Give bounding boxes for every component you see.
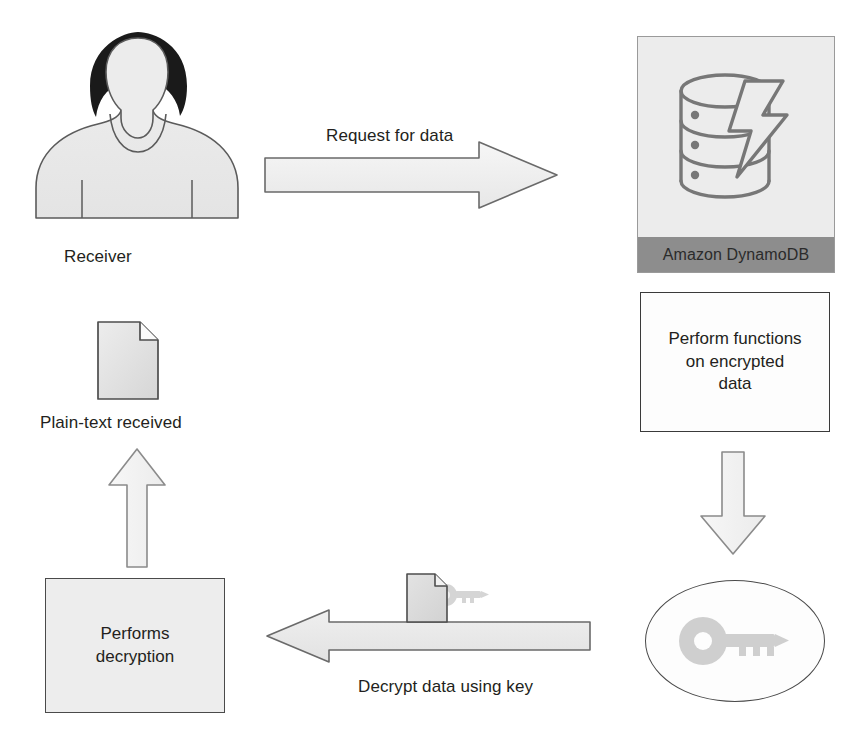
decrypt-data-label: Decrypt data using key — [358, 676, 533, 698]
receiver-label: Receiver — [64, 246, 132, 268]
dynamodb-footer-bar: Amazon DynamoDB — [638, 237, 834, 272]
performs-decryption-box: Performs decryption — [45, 578, 225, 713]
to-key-down-arrow — [697, 450, 769, 556]
key-store-oval — [645, 580, 825, 702]
document-icon — [96, 320, 168, 402]
amazon-dynamodb-node: Amazon DynamoDB — [637, 36, 835, 273]
document-with-key-icon — [405, 572, 493, 626]
diagram-canvas: Receiver Request for data — [0, 0, 855, 748]
perform-functions-box: Perform functions on encrypted data — [640, 292, 830, 432]
key-icon — [677, 613, 793, 669]
to-plaintext-up-arrow — [106, 447, 168, 569]
perform-functions-label: Perform functions on encrypted data — [668, 328, 801, 395]
request-for-data-label: Request for data — [326, 125, 453, 147]
request-for-data-arrow — [263, 140, 559, 210]
database-lightning-icon — [638, 37, 834, 237]
performs-decryption-label: Performs decryption — [96, 623, 174, 668]
plain-text-received-label: Plain-text received — [40, 412, 182, 434]
dynamodb-label: Amazon DynamoDB — [663, 246, 809, 264]
person-silhouette-icon — [32, 28, 242, 243]
